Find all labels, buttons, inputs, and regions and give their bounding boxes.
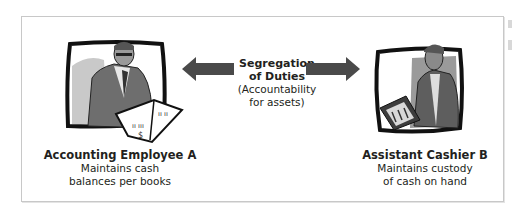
cashier-b-desc-line1: Maintains custody xyxy=(350,162,500,175)
edge-mark xyxy=(508,20,512,28)
employee-a-title: Accounting Employee A xyxy=(30,148,210,162)
employee-a-caption: Accounting Employee A Maintains cash bal… xyxy=(30,148,210,188)
cashier-illustration-icon xyxy=(370,38,470,138)
arrow-left-icon xyxy=(182,57,234,81)
svg-text:ıı ıı: ıı ıı xyxy=(158,110,168,118)
cashier-b-title: Assistant Cashier B xyxy=(350,148,500,162)
segregation-subtitle-line2: for assets) xyxy=(232,96,322,109)
employee-a-desc-line1: Maintains cash xyxy=(30,162,210,175)
cashier-b-caption: Assistant Cashier B Maintains custody of… xyxy=(350,148,500,188)
svg-text:$: $ xyxy=(138,131,143,140)
edge-mark xyxy=(508,40,512,50)
segregation-subtitle-line1: (Accountability xyxy=(232,83,322,96)
arrow-right-icon xyxy=(306,57,360,81)
svg-text:ıı ııı: ıı ııı xyxy=(132,122,144,130)
cashier-b-desc-line2: of cash on hand xyxy=(350,175,500,188)
employee-a-desc-line2: balances per books xyxy=(30,175,210,188)
accountant-illustration-icon: ıı ııı ıı ıı $ xyxy=(58,38,186,146)
